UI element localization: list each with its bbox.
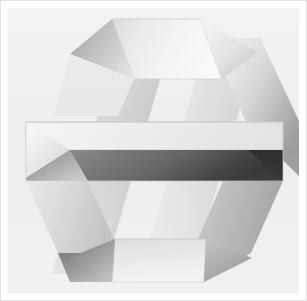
outer-hairline-frame — [0, 0, 307, 301]
artwork-stage — [0, 0, 307, 301]
